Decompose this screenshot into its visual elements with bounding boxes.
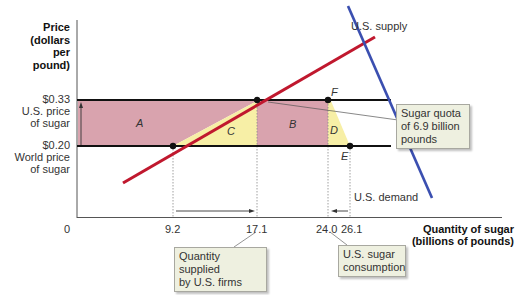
callout-line: Quantity supplied — [179, 250, 262, 276]
us-demand-curve — [348, 6, 432, 198]
callout-line: U.S. sugar — [343, 248, 401, 261]
x-tick-24-0: 24.0 — [316, 223, 337, 235]
region-a-label: A — [136, 117, 143, 129]
callout-quantity-supplied: Quantity supplied by U.S. firms — [174, 247, 267, 292]
y-tick-low-label: of sugar — [0, 163, 70, 175]
demand-label: U.S. demand — [354, 191, 418, 203]
y-tick-low: $0.20 World price of sugar — [0, 139, 70, 175]
x-tick-0: 0 — [64, 223, 70, 235]
region-c-label: C — [227, 125, 235, 137]
y-tick-high-label: U.S. price — [0, 105, 70, 117]
y-title-line: (dollars — [0, 34, 70, 47]
y-tick-low-value: $0.20 — [0, 139, 70, 151]
supply-increase-arrow — [176, 209, 255, 213]
y-tick-low-label: World price — [0, 151, 70, 163]
x-tick-9-2: 9.2 — [165, 223, 180, 235]
region-b-label: B — [289, 118, 296, 130]
y-tick-high-value: $0.33 — [0, 93, 70, 105]
point-f-label: F — [331, 86, 338, 98]
y-title-line: pound) — [0, 59, 70, 72]
x-title-line: Quantity of sugar — [384, 223, 514, 235]
y-axis-title: Price (dollars per pound) — [0, 21, 70, 71]
y-title-line: per — [0, 46, 70, 59]
callout-line: consumption — [343, 261, 401, 274]
point-world-supply — [170, 143, 176, 149]
y-tick-high: $0.33 U.S. price of sugar — [0, 93, 70, 129]
consumption-decrease-arrow — [331, 209, 348, 213]
region-d-label: D — [330, 124, 338, 136]
callout-line: of 6.9 billion — [401, 120, 465, 133]
point-e — [347, 143, 353, 149]
x-axis-title: Quantity of sugar (billions of pounds) — [384, 223, 514, 247]
point-e-label: E — [341, 150, 348, 162]
y-tick-high-label: of sugar — [0, 117, 70, 129]
x-tick-26-1: 26.1 — [341, 223, 362, 235]
callout-sugar-quota: Sugar quota of 6.9 billion pounds — [396, 104, 470, 149]
point-us-supply — [254, 97, 260, 103]
callout-line: pounds — [401, 133, 465, 146]
y-title-line: Price — [0, 21, 70, 34]
supply-label: U.S. supply — [351, 20, 407, 32]
callout-us-consumption: U.S. sugar consumption — [338, 245, 406, 277]
callout-line: Sugar quota — [401, 107, 465, 120]
x-tick-17-1: 17.1 — [246, 223, 267, 235]
callout-line: by U.S. firms — [179, 276, 262, 289]
